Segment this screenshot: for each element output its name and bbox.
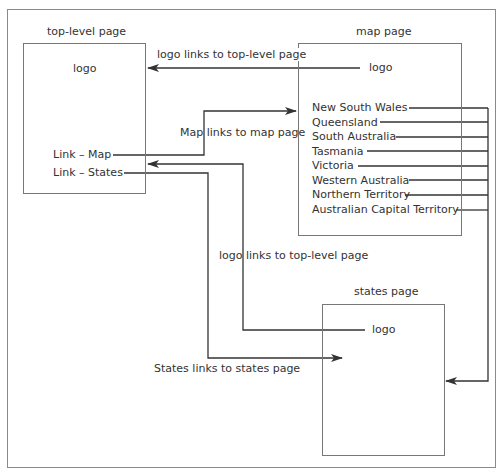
map-page-title: map page	[356, 25, 411, 38]
state-link-sa[interactable]: South Australia	[312, 130, 396, 143]
state-link-tas[interactable]: Tasmania	[312, 145, 364, 158]
state-link-wa[interactable]: Western Australia	[312, 174, 409, 187]
link-map[interactable]: Link – Map	[53, 148, 111, 161]
state-link-nt[interactable]: Northern Territory	[312, 188, 410, 201]
state-link-qld[interactable]: Queensland	[312, 116, 378, 129]
top-level-page-title: top-level page	[47, 25, 126, 38]
state-link-nsw[interactable]: New South Wales	[312, 101, 407, 114]
state-link-act[interactable]: Australian Capital Territory	[312, 203, 459, 216]
states-logo[interactable]: logo	[372, 323, 396, 336]
label-map-link: Map links to map page	[180, 126, 305, 139]
top-level-logo[interactable]: logo	[73, 62, 97, 75]
map-logo[interactable]: logo	[369, 61, 393, 74]
label-states-logo-to-top: logo links to top-level page	[219, 249, 368, 262]
label-map-logo-to-top: logo links to top-level page	[157, 48, 306, 61]
link-states[interactable]: Link – States	[53, 166, 123, 179]
states-page-title: states page	[354, 285, 419, 298]
label-states-link: States links to states page	[154, 362, 300, 375]
state-link-vic[interactable]: Victoria	[312, 159, 354, 172]
